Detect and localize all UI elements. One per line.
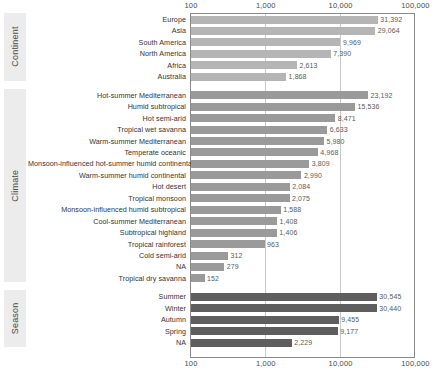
bar-value-label: 5,980 bbox=[326, 136, 344, 147]
table-row: Spring9,177 bbox=[0, 326, 434, 337]
x-tick-100: 100 bbox=[184, 1, 197, 10]
table-row: Autumn9,455 bbox=[0, 314, 434, 325]
table-row: Winter30,440 bbox=[0, 303, 434, 314]
x-axis-bottom: 1001,00010,000100,000 bbox=[0, 359, 434, 371]
bar-value-label: 8,471 bbox=[338, 113, 356, 124]
bar-value-label: 23,192 bbox=[370, 90, 392, 101]
bar-category-label: Monsoon-influenced humid subtropical bbox=[28, 204, 186, 215]
bar-category-label: Africa bbox=[28, 60, 186, 71]
bar bbox=[191, 263, 224, 271]
bar bbox=[191, 217, 277, 225]
bar-category-label: Winter bbox=[28, 303, 186, 314]
bar bbox=[191, 126, 327, 134]
table-row: Asia29,064 bbox=[0, 25, 434, 36]
table-row: Temperate oceanic4,968 bbox=[0, 147, 434, 158]
bar bbox=[191, 27, 375, 35]
bar bbox=[191, 103, 355, 111]
bar-value-label: 1,588 bbox=[283, 204, 301, 215]
bar bbox=[191, 339, 292, 347]
bar-value-label: 6,633 bbox=[330, 124, 348, 135]
bar bbox=[191, 171, 301, 179]
x-tick-100: 100 bbox=[184, 359, 197, 368]
bar-category-label: Asia bbox=[28, 25, 186, 36]
bar-category-label: Europe bbox=[28, 14, 186, 25]
table-row: Hot desert2,084 bbox=[0, 181, 434, 192]
bar bbox=[191, 252, 228, 260]
table-row: Humid subtropical15,536 bbox=[0, 101, 434, 112]
bar-category-label: Humid subtropical bbox=[28, 101, 186, 112]
x-tick-1000: 1,000 bbox=[256, 1, 276, 10]
table-row: Europe31,392 bbox=[0, 14, 434, 25]
bar-value-label: 9,177 bbox=[340, 326, 358, 337]
x-tick-100000: 100,000 bbox=[401, 1, 430, 10]
bar-value-label: 2,990 bbox=[304, 170, 322, 181]
table-row: Tropical rainforest963 bbox=[0, 239, 434, 250]
bar-category-label: Autumn bbox=[28, 314, 186, 325]
bar-value-label: 4,968 bbox=[320, 147, 338, 158]
bar-category-label: Cold semi-arid bbox=[28, 250, 186, 261]
bar-category-label: NA bbox=[28, 337, 186, 348]
x-tick-10000: 10,000 bbox=[329, 1, 353, 10]
bar bbox=[191, 137, 324, 145]
table-row: Cool-summer Mediterranean1,408 bbox=[0, 216, 434, 227]
bar-value-label: 2,084 bbox=[292, 181, 310, 192]
bar bbox=[191, 148, 318, 156]
bar-category-label: Temperate oceanic bbox=[28, 147, 186, 158]
bar-category-label: Hot desert bbox=[28, 181, 186, 192]
bar-category-label: Summer bbox=[28, 291, 186, 302]
bar-value-label: 3,809 bbox=[312, 158, 330, 169]
bar-category-label: Hot semi-arid bbox=[28, 113, 186, 124]
bar bbox=[191, 293, 377, 301]
table-row: Hot-summer Mediterranean23,192 bbox=[0, 90, 434, 101]
bar-value-label: 31,392 bbox=[380, 14, 402, 25]
bar-category-label: Tropical dry savanna bbox=[28, 273, 186, 284]
bar-category-label: NA bbox=[28, 261, 186, 272]
x-tick-10000: 10,000 bbox=[329, 359, 353, 368]
bar bbox=[191, 91, 368, 99]
bar-value-label: 152 bbox=[207, 273, 219, 284]
bar bbox=[191, 229, 277, 237]
table-row: NA279 bbox=[0, 261, 434, 272]
bar-category-label: Warm-summer Mediterranean bbox=[28, 136, 186, 147]
table-row: Warm-summer Mediterranean5,980 bbox=[0, 136, 434, 147]
bar bbox=[191, 240, 265, 248]
table-row: NA2,229 bbox=[0, 337, 434, 348]
x-axis-top: 1001,00010,000100,000 bbox=[0, 1, 434, 13]
bar-value-label: 312 bbox=[230, 250, 242, 261]
bar bbox=[191, 73, 286, 81]
bar-value-label: 2,075 bbox=[292, 193, 310, 204]
bar-value-label: 30,545 bbox=[379, 291, 401, 302]
table-row: Warm-summer humid continental2,990 bbox=[0, 170, 434, 181]
bar-value-label: 279 bbox=[227, 261, 239, 272]
bar bbox=[191, 114, 335, 122]
bar-value-label: 1,868 bbox=[289, 71, 307, 82]
bar bbox=[191, 61, 297, 69]
bar-category-label: Warm-summer humid continental bbox=[28, 170, 186, 181]
bar bbox=[191, 304, 377, 312]
bar-value-label: 29,064 bbox=[378, 25, 400, 36]
table-row: Cold semi-arid312 bbox=[0, 250, 434, 261]
bar-category-label: South America bbox=[28, 37, 186, 48]
table-row: Tropical dry savanna152 bbox=[0, 273, 434, 284]
table-row: Tropical monsoon2,075 bbox=[0, 193, 434, 204]
table-row: Summer30,545 bbox=[0, 291, 434, 302]
bar bbox=[191, 316, 339, 324]
bar-value-label: 1,408 bbox=[279, 216, 297, 227]
table-row: Monsoon-influenced hot-summer humid cont… bbox=[0, 158, 434, 169]
bar-category-label: Cool-summer Mediterranean bbox=[28, 216, 186, 227]
table-row: Australia1,868 bbox=[0, 71, 434, 82]
table-row: Monsoon-influenced humid subtropical1,58… bbox=[0, 204, 434, 215]
bar-category-label: Subtropical highland bbox=[28, 227, 186, 238]
x-tick-100000: 100,000 bbox=[401, 359, 430, 368]
bar-value-label: 2,613 bbox=[300, 60, 318, 71]
bar-category-label: Spring bbox=[28, 326, 186, 337]
bar-value-label: 9,969 bbox=[343, 37, 361, 48]
table-row: Subtropical highland1,406 bbox=[0, 227, 434, 238]
bar-value-label: 1,406 bbox=[279, 227, 297, 238]
bar-value-label: 15,536 bbox=[357, 101, 379, 112]
bar-category-label: North America bbox=[28, 48, 186, 59]
bar bbox=[191, 160, 309, 168]
bar-category-label: Monsoon-influenced hot-summer humid cont… bbox=[28, 158, 186, 169]
bar-value-label: 2,229 bbox=[294, 337, 312, 348]
log-scale-bar-chart: 1001,00010,000100,000 1001,00010,000100,… bbox=[0, 0, 434, 371]
